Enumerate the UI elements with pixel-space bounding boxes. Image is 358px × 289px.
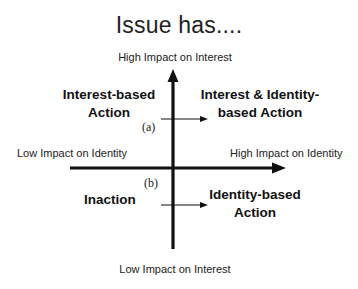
quadrant-bottom-right: Identity-based Action: [200, 186, 310, 222]
quadrant-bottom-right-line1: Identity-based: [200, 186, 310, 204]
quadrant-bottom-left-line1: Inaction: [70, 191, 150, 209]
marker-a: (a): [142, 120, 155, 135]
quadrant-top-right-line1: Interest & Identity-: [195, 86, 325, 104]
marker-b: (b): [144, 176, 158, 191]
axes-graphic: [0, 0, 358, 289]
quadrant-top-right: Interest & Identity- based Action: [195, 86, 325, 122]
quadrant-top-right-line2: based Action: [195, 104, 325, 122]
quadrant-top-left: Interest-based Action: [49, 86, 169, 122]
quadrant-top-left-line1: Interest-based: [49, 86, 169, 104]
quadrant-bottom-left: Inaction: [70, 191, 150, 209]
vertical-axis-arrowhead-icon: [168, 69, 179, 82]
horizontal-axis-arrowhead-icon: [272, 163, 286, 174]
quadrant-bottom-right-line2: Action: [200, 204, 310, 222]
